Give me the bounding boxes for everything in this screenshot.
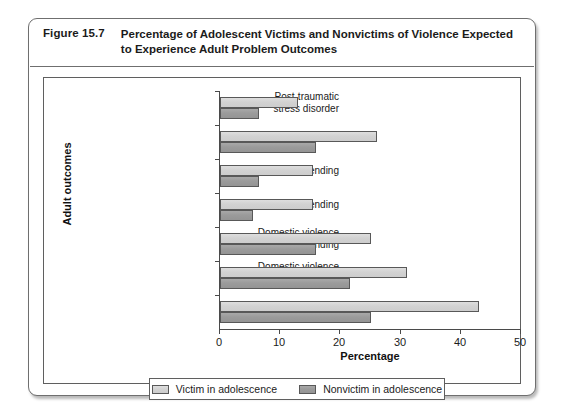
figure-frame: Figure 15.7 Percentage of Adolescent Vic… [28, 18, 536, 396]
bar-group-domestic-violence-victimization: Domestic violence victimization [220, 261, 521, 295]
y-axis-tick [215, 295, 220, 296]
bar-nonvictim-problem-drug-use [220, 142, 316, 153]
x-axis-label-20: 20 [324, 336, 354, 348]
x-axis-tick-30 [400, 329, 401, 334]
bar-nonvictim-property-offending [220, 176, 259, 187]
bar-victim-problem-drug-use [220, 131, 377, 142]
y-axis-tick [215, 125, 220, 126]
x-axis-label-10: 10 [264, 336, 294, 348]
legend-label-victim: Victim in adolescence [176, 383, 277, 395]
legend-swatch-victim-icon [152, 385, 169, 394]
y-axis-tick [215, 159, 220, 160]
bar-group-violent-victimization: Violent victimization [220, 295, 521, 329]
legend-swatch-nonvictim-icon [299, 385, 316, 394]
bar-victim-violent-offending [220, 199, 313, 210]
legend-item-nonvictim: Nonvictim in adolescence [299, 383, 442, 395]
chart-axis-area: Post-traumatic stress disorder Problem d… [219, 91, 521, 329]
x-axis-label-40: 40 [445, 336, 475, 348]
x-axis-line [219, 329, 521, 330]
bar-group-property-offending: Property offending [220, 159, 521, 193]
y-axis-tick [215, 193, 220, 194]
bar-victim-domestic-violence-victimization [220, 267, 407, 278]
bar-group-problem-drug-use: Problem drug use [220, 125, 521, 159]
bar-nonvictim-post-traumatic-stress-disorder [220, 108, 259, 119]
bar-victim-domestic-violence-offending [220, 233, 371, 244]
x-axis-tick-10 [279, 329, 280, 334]
bar-nonvictim-violent-victimization [220, 312, 371, 323]
chart-plot-panel: Adult outcomes Post-traumatic stress dis… [43, 77, 521, 384]
caption-divider [30, 66, 534, 67]
x-axis-label-50: 50 [505, 336, 535, 348]
figure-number: Figure 15.7 [43, 27, 105, 39]
x-axis-tick-0 [219, 329, 220, 334]
x-axis-tick-50 [520, 329, 521, 334]
x-axis-label-0: 0 [204, 336, 234, 348]
bar-group-domestic-violence-offending: Domestic violence offending [220, 227, 521, 261]
x-axis-tick-20 [339, 329, 340, 334]
x-axis-title: Percentage [219, 350, 521, 362]
bar-nonvictim-domestic-violence-victimization [220, 278, 350, 289]
bar-nonvictim-domestic-violence-offending [220, 244, 316, 255]
figure-caption: Figure 15.7 Percentage of Adolescent Vic… [29, 19, 535, 67]
y-axis-title: Adult outcomes [61, 114, 73, 254]
bar-group-post-traumatic-stress-disorder: Post-traumatic stress disorder [220, 91, 521, 125]
bar-victim-post-traumatic-stress-disorder [220, 97, 298, 108]
bar-victim-violent-victimization [220, 301, 479, 312]
legend-item-victim: Victim in adolescence [152, 383, 277, 395]
x-axis-tick-40 [460, 329, 461, 334]
bar-nonvictim-violent-offending [220, 210, 253, 221]
bar-victim-property-offending [220, 165, 313, 176]
chart-legend: Victim in adolescence Nonvictim in adole… [149, 378, 445, 400]
legend-label-nonvictim: Nonvictim in adolescence [323, 383, 442, 395]
x-axis-label-30: 30 [385, 336, 415, 348]
figure-title: Percentage of Adolescent Victims and Non… [121, 27, 521, 57]
bar-group-violent-offending: Violent offending [220, 193, 521, 227]
